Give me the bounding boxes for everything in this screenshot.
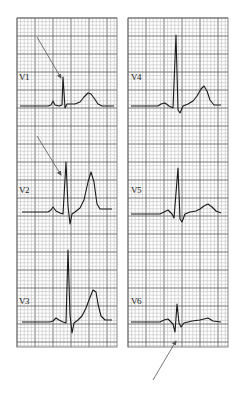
lead-label-v3: V3 [19,296,29,306]
lead-label-v5: V5 [131,185,141,195]
ecg-trace-v5 [131,168,221,222]
lead-label-v4: V4 [131,72,141,82]
lead-label-v6: V6 [131,296,141,306]
lead-label-v2: V2 [19,185,29,195]
right-strip-grid [128,18,228,347]
ecg-trace-v2 [22,162,112,224]
ecg-figure [0,0,243,395]
lead-label-v1: V1 [19,72,29,82]
